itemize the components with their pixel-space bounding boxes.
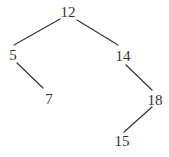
edge-5-7	[17, 63, 43, 88]
node-14: 14	[116, 49, 131, 64]
edge-14-18	[126, 65, 152, 90]
tree-edges	[0, 0, 169, 157]
node-12: 12	[61, 5, 76, 20]
node-15: 15	[115, 134, 130, 149]
node-18: 18	[148, 93, 163, 108]
edge-18-15	[124, 107, 152, 132]
node-5: 5	[9, 48, 17, 63]
edge-12-14	[77, 20, 118, 45]
node-7: 7	[45, 92, 53, 107]
tree-diagram: 12 5 14 7 18 15	[0, 0, 169, 157]
edge-12-5	[14, 19, 60, 45]
